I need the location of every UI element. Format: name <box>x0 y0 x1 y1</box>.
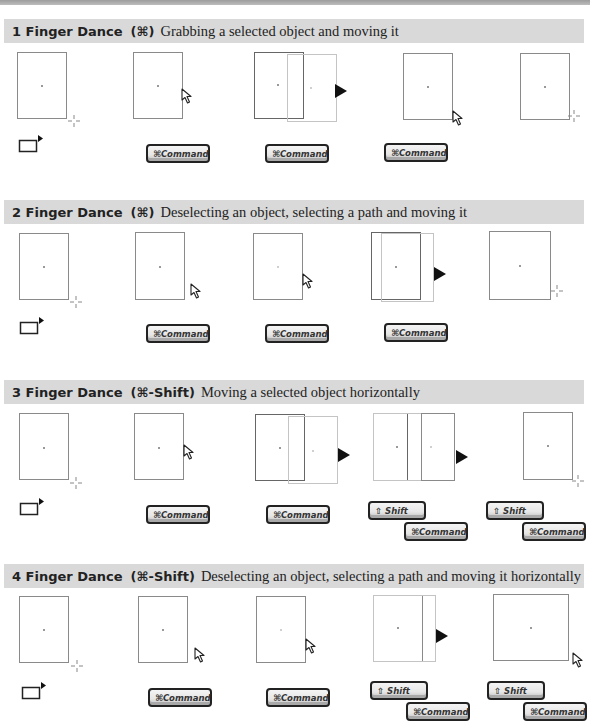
center-point <box>530 627 532 629</box>
section-description: Deselecting an object, selecting a path … <box>201 568 581 585</box>
section-modifier: (⌘-Shift) <box>131 569 195 584</box>
crosshair-cursor-icon <box>71 660 83 672</box>
arrow-cursor-icon <box>305 638 319 654</box>
center-point <box>280 629 282 631</box>
section-header: 4 Finger Dance (⌘-Shift) Deselecting an … <box>4 564 584 588</box>
rectangle-with-arrow-icon <box>21 681 49 701</box>
shift-key: ⇧ Shift <box>487 681 545 700</box>
section-title: 4 Finger Dance <box>12 569 123 584</box>
shift-key: ⇧ Shift <box>370 681 428 700</box>
arrow-cursor-icon <box>572 652 586 668</box>
command-key: ⌘Command <box>523 702 587 721</box>
arrow-cursor-icon <box>194 647 208 663</box>
command-key: ⌘Command <box>406 702 470 721</box>
center-point <box>397 627 399 629</box>
command-key: ⌘Command <box>266 688 330 707</box>
section-4: 4 Finger Dance (⌘-Shift) Deselecting an … <box>0 0 590 721</box>
center-point <box>162 629 164 631</box>
command-key: ⌘Command <box>148 688 212 707</box>
center-point <box>43 629 45 631</box>
dragged-path-outline <box>373 595 436 662</box>
move-cursor-icon <box>435 628 449 644</box>
